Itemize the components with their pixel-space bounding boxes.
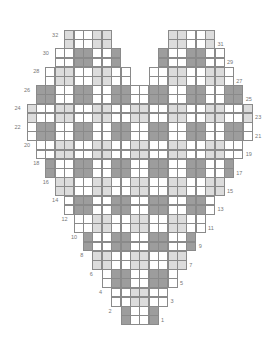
grid-cell <box>224 76 234 86</box>
grid-cell <box>233 140 243 150</box>
grid-cell <box>205 39 215 49</box>
row-number-label: 32 <box>52 32 58 38</box>
row-number-label: 10 <box>71 234 77 240</box>
row-number-label: 3 <box>171 298 174 304</box>
grid-cell <box>205 196 215 206</box>
row-number-label: 11 <box>208 225 214 231</box>
grid-cell <box>215 58 225 68</box>
grid-cell <box>205 30 215 40</box>
grid-cell <box>158 288 168 298</box>
grid-cell <box>102 30 112 40</box>
grid-cell <box>168 278 178 288</box>
grid-cell <box>186 232 196 242</box>
grid-cell <box>196 223 206 233</box>
grid-cell <box>121 76 131 86</box>
row-number-label: 6 <box>90 271 93 277</box>
row-number-label: 22 <box>15 124 21 130</box>
row-number-label: 2 <box>109 308 112 314</box>
grid-cell <box>233 85 243 95</box>
row-number-label: 4 <box>99 289 102 295</box>
grid-cell <box>111 48 121 58</box>
grid-cell <box>177 260 187 270</box>
heart-chart: 1234567891011121314151617181920212223242… <box>0 0 274 340</box>
grid-cell <box>215 186 225 196</box>
grid-cell <box>102 39 112 49</box>
grid-cell <box>111 58 121 68</box>
row-number-label: 19 <box>246 151 252 157</box>
row-number-label: 29 <box>227 59 233 65</box>
row-number-label: 27 <box>236 78 242 84</box>
row-number-label: 15 <box>227 188 233 194</box>
row-number-label: 25 <box>246 96 252 102</box>
grid-cell <box>215 48 225 58</box>
grid-cell <box>224 159 234 169</box>
row-number-label: 20 <box>24 142 30 148</box>
row-number-label: 28 <box>33 68 39 74</box>
grid-cell <box>149 315 159 325</box>
row-number-label: 14 <box>52 197 58 203</box>
row-number-label: 9 <box>199 243 202 249</box>
grid-cell <box>186 242 196 252</box>
row-number-label: 12 <box>62 216 68 222</box>
grid-cell <box>196 214 206 224</box>
grid-cell <box>243 113 253 123</box>
row-number-label: 23 <box>255 114 261 120</box>
row-number-label: 31 <box>218 41 224 47</box>
row-number-label: 26 <box>24 87 30 93</box>
grid-cell <box>243 104 253 114</box>
grid-cell <box>177 251 187 261</box>
row-number-label: 17 <box>236 170 242 176</box>
row-number-label: 13 <box>218 206 224 212</box>
row-number-label: 18 <box>33 160 39 166</box>
grid-cell <box>158 297 168 307</box>
grid-cell <box>233 150 243 160</box>
grid-cell <box>243 131 253 141</box>
row-number-label: 8 <box>80 252 83 258</box>
grid-cell <box>149 306 159 316</box>
grid-cell <box>215 177 225 187</box>
grid-cell <box>233 94 243 104</box>
row-number-label: 21 <box>255 133 261 139</box>
row-number-label: 1 <box>161 317 164 323</box>
grid-cell <box>121 67 131 77</box>
row-number-label: 16 <box>43 179 49 185</box>
row-number-label: 24 <box>15 105 21 111</box>
grid-cell <box>168 269 178 279</box>
row-number-label: 7 <box>189 262 192 268</box>
grid-cell <box>224 67 234 77</box>
grid-cell <box>224 168 234 178</box>
row-number-label: 5 <box>180 280 183 286</box>
row-number-label: 30 <box>43 50 49 56</box>
grid-cell <box>205 205 215 215</box>
grid-cell <box>243 122 253 132</box>
